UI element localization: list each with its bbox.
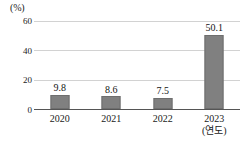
x-tick-text-2022: 2022 — [153, 113, 173, 124]
bar-group-2022: 7.5 — [137, 21, 189, 110]
y-axis-ticks: 60 40 20 0 — [0, 21, 32, 110]
bar-2022[interactable] — [153, 98, 172, 109]
x-axis-ticks: 2020 2021 2022 2023 (연도) — [34, 113, 240, 149]
bar-2020[interactable] — [50, 95, 69, 110]
x-tick-label-2023: 2023 (연도) — [189, 113, 241, 137]
x-tick-label-2020: 2020 — [34, 113, 86, 125]
y-tick-label-20: 20 — [2, 76, 32, 85]
y-tick-label-40: 40 — [2, 46, 32, 55]
y-tick-label-60: 60 — [2, 17, 32, 26]
x-tick-label-2022: 2022 — [137, 113, 189, 125]
x-axis-unit-label: (연도) — [189, 125, 241, 137]
x-tick-text-2021: 2021 — [101, 113, 121, 124]
y-tick-label-0: 0 — [2, 106, 32, 115]
bar-group-2021: 8.6 — [86, 21, 138, 110]
bar-2023[interactable] — [205, 35, 224, 109]
bar-group-2023: 50.1 — [189, 21, 241, 110]
plot-area: 9.8 8.6 7.5 50.1 — [34, 21, 240, 110]
y-axis-unit-label: (%) — [10, 2, 24, 14]
bar-series: 9.8 8.6 7.5 50.1 — [34, 21, 240, 110]
x-tick-text-2020: 2020 — [50, 113, 70, 124]
x-tick-label-2021: 2021 — [86, 113, 138, 125]
bar-value-2020: 9.8 — [54, 82, 67, 93]
bar-value-2022: 7.5 — [157, 85, 170, 96]
bar-value-2021: 8.6 — [105, 84, 118, 95]
bar-2021[interactable] — [102, 96, 121, 109]
bar-value-2023: 50.1 — [206, 22, 224, 33]
x-tick-text-2023: 2023 — [204, 113, 224, 124]
bar-chart: (%) 60 40 20 0 9.8 8.6 7.5 — [0, 0, 248, 150]
bar-group-2020: 9.8 — [34, 21, 86, 110]
